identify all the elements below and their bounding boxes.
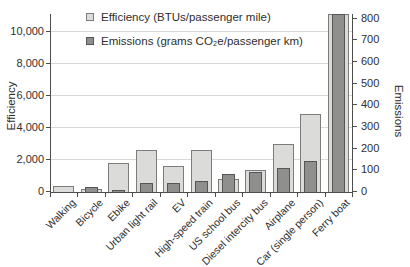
bar-efficiency-walking bbox=[53, 186, 74, 192]
left-axis-tick bbox=[46, 95, 50, 96]
right-axis-tick-label: 600 bbox=[361, 56, 395, 67]
left-axis-tick bbox=[46, 127, 50, 128]
plot-area bbox=[50, 14, 352, 192]
left-axis-line bbox=[50, 14, 51, 193]
right-axis-tick bbox=[353, 126, 357, 127]
left-axis-tick bbox=[46, 159, 50, 160]
x-axis-tick bbox=[160, 193, 161, 197]
left-axis-tick-label: 6,000 bbox=[0, 90, 44, 101]
x-axis-label-walking: Walking bbox=[44, 197, 78, 231]
x-axis-tick bbox=[352, 193, 353, 197]
bar-emissions-high-speed-train bbox=[195, 181, 208, 192]
bar-efficiency-ebike bbox=[108, 163, 129, 192]
x-axis-tick bbox=[50, 193, 51, 197]
left-axis-tick-label: 8,000 bbox=[0, 58, 44, 69]
x-axis-label-ev: EV bbox=[170, 197, 188, 215]
left-axis-tick-label: 4,000 bbox=[0, 122, 44, 133]
right-axis-tick bbox=[353, 104, 357, 105]
right-axis-tick bbox=[353, 191, 357, 192]
right-axis-tick-label: 400 bbox=[361, 99, 395, 110]
bar-emissions-urban-light-rail bbox=[140, 183, 153, 192]
left-axis-tick bbox=[46, 31, 50, 32]
left-axis-tick-label: 10,000 bbox=[0, 26, 44, 37]
right-axis-tick bbox=[353, 169, 357, 170]
left-axis-tick-label: 2,000 bbox=[0, 154, 44, 165]
x-axis-tick bbox=[77, 193, 78, 197]
x-axis-tick bbox=[325, 193, 326, 197]
right-axis-tick bbox=[353, 18, 357, 19]
bar-emissions-ev bbox=[167, 183, 180, 192]
transport-efficiency-emissions-chart: Efficiency (BTUs/passenger mile) Emissio… bbox=[0, 0, 410, 267]
gridline bbox=[50, 63, 352, 64]
bar-emissions-airplane bbox=[277, 168, 290, 192]
right-axis-tick bbox=[353, 148, 357, 149]
x-axis-tick bbox=[242, 193, 243, 197]
bar-emissions-car-single-person bbox=[304, 161, 317, 192]
x-axis-line bbox=[50, 192, 353, 193]
left-axis-tick bbox=[46, 191, 50, 192]
gridline bbox=[50, 95, 352, 96]
right-axis-tick-label: 0 bbox=[361, 186, 395, 197]
x-axis-tick bbox=[215, 193, 216, 197]
left-axis-tick bbox=[46, 63, 50, 64]
gridline bbox=[50, 31, 352, 32]
x-axis-tick bbox=[297, 193, 298, 197]
right-axis-tick bbox=[353, 39, 357, 40]
x-axis-tick bbox=[187, 193, 188, 197]
bar-emissions-us-school-bus bbox=[222, 174, 235, 192]
right-axis-tick-label: 800 bbox=[361, 13, 395, 24]
bar-emissions-ferry-boat bbox=[332, 14, 345, 192]
right-axis-tick-label: 300 bbox=[361, 121, 395, 132]
right-axis-tick bbox=[353, 83, 357, 84]
right-axis-tick-label: 700 bbox=[361, 34, 395, 45]
right-axis-tick bbox=[353, 61, 357, 62]
bar-emissions-diesel-intercity-bus bbox=[249, 172, 262, 192]
right-axis-tick-label: 500 bbox=[361, 78, 395, 89]
x-axis-label-bicycle: Bicycle bbox=[74, 197, 105, 228]
bar-emissions-ebike bbox=[112, 190, 125, 192]
left-axis-tick-label: 0 bbox=[0, 186, 44, 197]
x-axis-tick bbox=[132, 193, 133, 197]
x-axis-tick bbox=[270, 193, 271, 197]
right-axis-tick-label: 100 bbox=[361, 164, 395, 175]
bar-emissions-bicycle bbox=[85, 187, 98, 192]
right-axis-tick-label: 200 bbox=[361, 143, 395, 154]
x-axis-tick bbox=[105, 193, 106, 197]
